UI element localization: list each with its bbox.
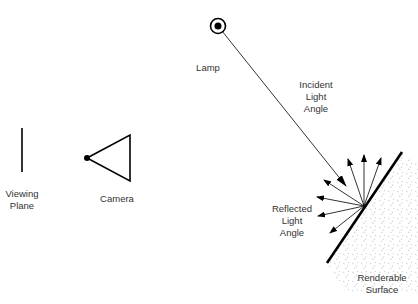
lighting-diagram: Lamp Incident Light Angle Reflected Ligh… — [0, 0, 418, 304]
reflected-light-angle-label: Reflected Light Angle — [262, 203, 322, 239]
viewing-plane-label: Viewing Plane — [0, 188, 44, 212]
camera-icon — [84, 135, 130, 181]
lamp-icon — [211, 19, 226, 34]
diagram-canvas — [0, 0, 418, 304]
camera-label: Camera — [92, 193, 142, 205]
incident-light-angle-label: Incident Light Angle — [286, 79, 346, 115]
lamp-label: Lamp — [188, 62, 228, 74]
surface-texture — [327, 152, 418, 292]
renderable-surface-label: Renderable Surface — [350, 272, 414, 296]
